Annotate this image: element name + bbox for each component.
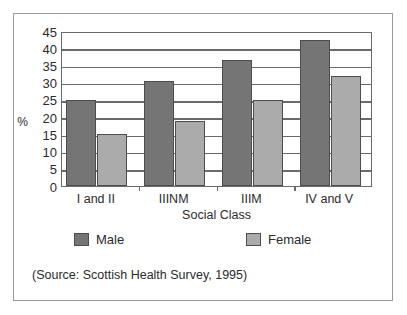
axis-tick-mark	[217, 187, 219, 191]
plot-wrapper	[61, 32, 372, 188]
legend-label: Female	[268, 232, 311, 247]
y-axis-tick-label: 40	[31, 43, 57, 56]
bar-male[interactable]	[222, 60, 252, 186]
chart-figure: 051015202530354045 % I and IIIIINMIIIMIV…	[13, 13, 393, 301]
bar-male[interactable]	[66, 100, 96, 186]
bar-female[interactable]	[253, 100, 283, 186]
y-axis-tick-label: 5	[31, 163, 57, 176]
bar-group	[62, 33, 140, 186]
bar-series-container	[62, 33, 371, 186]
x-axis-tick-label: IV and V	[281, 192, 378, 206]
axis-tick-mark	[294, 187, 296, 191]
axis-tick-mark	[139, 187, 141, 191]
legend-entry-male[interactable]: Male	[74, 232, 124, 247]
source-note: (Source: Scottish Health Survey, 1995)	[32, 268, 247, 282]
bar-group	[140, 33, 218, 186]
bar-group	[295, 33, 372, 186]
y-axis-tick-label: 20	[31, 112, 57, 125]
bar-female[interactable]	[97, 134, 127, 186]
bar-male[interactable]	[144, 81, 174, 186]
bar-male[interactable]	[300, 40, 330, 186]
chart-legend: MaleFemale	[74, 232, 364, 250]
y-axis-tick-label: 45	[31, 26, 57, 39]
plot-area	[61, 32, 372, 187]
legend-swatch-male	[74, 233, 89, 246]
legend-label: Male	[96, 232, 124, 247]
y-axis-tick-label: 15	[31, 129, 57, 142]
y-axis-tick-labels: 051015202530354045	[27, 32, 57, 188]
legend-swatch-female	[246, 233, 261, 246]
y-axis-tick-label: 25	[31, 94, 57, 107]
x-axis-tick-labels: I and IIIIINMIIIMIV and V	[61, 192, 372, 208]
y-axis-tick-label: 30	[31, 77, 57, 90]
y-axis-tick-label: 35	[31, 60, 57, 73]
x-axis-title: Social Class	[61, 208, 372, 222]
bar-female[interactable]	[331, 76, 361, 186]
y-axis-tick-label: 10	[31, 146, 57, 159]
legend-entry-female[interactable]: Female	[246, 232, 311, 247]
bar-female[interactable]	[175, 121, 205, 186]
bar-group	[218, 33, 296, 186]
y-axis-title: %	[14, 115, 28, 129]
